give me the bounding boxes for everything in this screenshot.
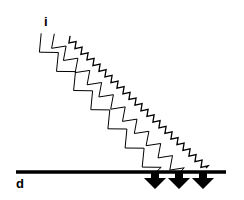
wave-long-wavelength bbox=[39, 33, 161, 172]
absorption-arrows bbox=[144, 172, 214, 189]
wave-diagram bbox=[0, 0, 244, 200]
wave-medium-wavelength bbox=[52, 34, 185, 172]
down-arrow-icon bbox=[192, 172, 214, 189]
down-arrow-icon bbox=[168, 172, 190, 189]
down-arrow-icon bbox=[144, 172, 166, 189]
